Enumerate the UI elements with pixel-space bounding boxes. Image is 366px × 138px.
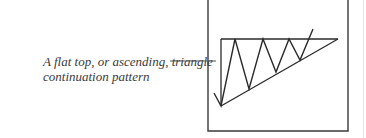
ascending-triangle-diagram xyxy=(0,0,366,138)
price-zigzag xyxy=(214,29,313,106)
page-edge xyxy=(363,0,364,138)
support-line xyxy=(221,39,338,106)
